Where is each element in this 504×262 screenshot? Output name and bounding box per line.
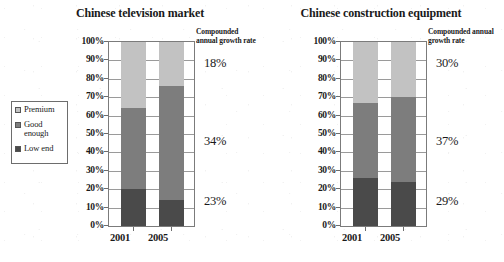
y-axis-tick-20: 20% (296, 183, 336, 193)
bar-2005 (391, 42, 416, 226)
y-axis-tick-90: 90% (296, 54, 336, 64)
x-axis-tickmark-2005 (403, 227, 404, 231)
y-axis-tickmark-10 (336, 207, 340, 208)
chart-chinese-television-market: Chinese television market Compounded ann… (0, 0, 252, 262)
chart-chinese-construction-equipment: Chinese construction equipment Compounde… (252, 0, 504, 262)
bar-segment-good-2005 (159, 86, 184, 200)
y-axis-tick-60: 60% (64, 110, 104, 120)
cagr-value-good-enough: 37% (436, 134, 458, 149)
y-axis-tickmark-30 (104, 170, 108, 171)
bar-segment-good-2001 (121, 108, 146, 189)
cagr-value-good-enough: 34% (204, 134, 226, 149)
y-axis-tick-40: 40% (296, 146, 336, 156)
y-axis-tickmark-80 (104, 78, 108, 79)
y-axis-tick-80: 80% (64, 73, 104, 83)
plot-area (340, 41, 427, 227)
bar-segment-low-2005 (391, 182, 416, 226)
bar-2005 (159, 42, 184, 226)
y-axis-tick-30: 30% (64, 165, 104, 175)
cagr-value-premium: 18% (204, 56, 226, 71)
y-axis-tickmark-100 (104, 41, 108, 42)
x-axis-label-2005: 2005 (368, 232, 412, 243)
x-axis-tickmark-2001 (365, 227, 366, 231)
y-axis-tickmark-20 (336, 188, 340, 189)
y-axis-tickmark-90 (104, 59, 108, 60)
x-axis-tickmark-2001 (133, 227, 134, 231)
bar-segment-low-2001 (353, 178, 378, 226)
y-axis-tickmark-40 (104, 151, 108, 152)
bar-2001 (353, 42, 378, 226)
y-axis-tickmark-70 (104, 96, 108, 97)
chart-title: Chinese construction equipment (252, 6, 504, 21)
y-axis-tick-0: 0% (296, 220, 336, 230)
y-axis-tick-60: 60% (296, 110, 336, 120)
y-axis-tick-70: 70% (296, 91, 336, 101)
y-axis-tick-30: 30% (296, 165, 336, 175)
bar-segment-premium-2005 (391, 42, 416, 97)
y-axis-tick-80: 80% (296, 73, 336, 83)
cagr-value-premium: 30% (436, 56, 458, 71)
y-axis-tick-50: 50% (296, 128, 336, 138)
y-axis-tickmark-90 (336, 59, 340, 60)
y-axis-tickmark-70 (336, 96, 340, 97)
chart-title: Chinese television market (0, 6, 252, 21)
cagr-value-low-end: 29% (436, 194, 458, 209)
y-axis-tickmark-80 (336, 78, 340, 79)
y-axis-tick-100: 100% (64, 36, 104, 46)
y-axis-tickmark-50 (104, 133, 108, 134)
x-axis-label-2005: 2005 (136, 232, 180, 243)
y-axis-tickmark-100 (336, 41, 340, 42)
bar-segment-good-2001 (353, 103, 378, 178)
y-axis-tick-70: 70% (64, 91, 104, 101)
y-axis-tickmark-30 (336, 170, 340, 171)
y-axis-tick-100: 100% (296, 36, 336, 46)
y-axis-tickmark-50 (336, 133, 340, 134)
y-axis-tick-40: 40% (64, 146, 104, 156)
y-axis-tickmark-60 (336, 115, 340, 116)
cagr-header-label: Compounded annual growth rate (196, 27, 258, 45)
bar-segment-premium-2001 (121, 42, 146, 108)
cagr-value-low-end: 23% (204, 194, 226, 209)
plot-area (108, 41, 195, 227)
bar-segment-good-2005 (391, 97, 416, 182)
y-axis-tickmark-10 (104, 207, 108, 208)
bar-segment-premium-2005 (159, 42, 184, 86)
bar-segment-premium-2001 (353, 42, 378, 103)
y-axis-tick-50: 50% (64, 128, 104, 138)
x-axis-tickmark-2005 (171, 227, 172, 231)
y-axis-tickmark-60 (104, 115, 108, 116)
cagr-header-label: Compounded annual growth rate (428, 27, 498, 45)
y-axis-tickmark-40 (336, 151, 340, 152)
y-axis-tick-20: 20% (64, 183, 104, 193)
bar-segment-low-2005 (159, 200, 184, 226)
y-axis-tickmark-0 (336, 225, 340, 226)
bar-2001 (121, 42, 146, 226)
y-axis-tickmark-20 (104, 188, 108, 189)
y-axis-tick-90: 90% (64, 54, 104, 64)
y-axis-tick-10: 10% (296, 202, 336, 212)
y-axis-tick-10: 10% (64, 202, 104, 212)
bar-segment-low-2001 (121, 189, 146, 226)
y-axis-tick-0: 0% (64, 220, 104, 230)
y-axis-tickmark-0 (104, 225, 108, 226)
